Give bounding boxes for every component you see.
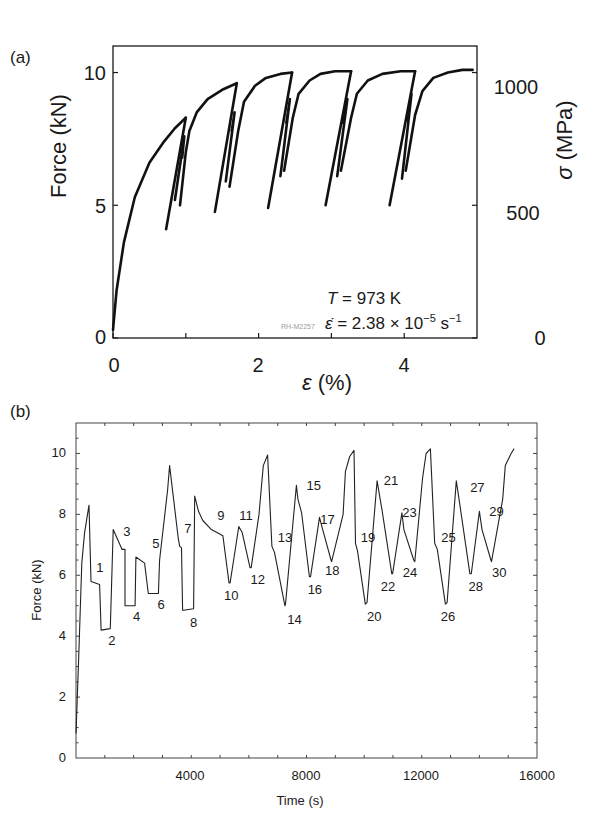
b-ytick-6: 6 [59, 567, 66, 582]
a-ylabel-right: σ (MPa) [552, 100, 577, 179]
segment-number-label: 24 [403, 565, 417, 580]
figure-canvas: (a) 0 5 10 0 500 1000 0 2 4 Force (kN) σ… [0, 0, 600, 836]
panel-b: (b) 123456789101112131415161718192021222… [10, 402, 555, 808]
strain-rate-unit: s [436, 314, 449, 333]
a-ytick-5: 5 [95, 195, 106, 217]
segment-number-label: 14 [287, 612, 301, 627]
epsilon-symbol: ε [302, 370, 312, 395]
segment-number-label: 11 [239, 508, 253, 523]
temperature-value: = 973 K [337, 289, 401, 308]
panel-b-segment-labels: 1234567891011121314151617181920212223242… [96, 473, 506, 648]
b-ytick-4: 4 [59, 628, 66, 643]
a-xtick-2: 2 [252, 354, 263, 376]
segment-number-label: 30 [492, 565, 506, 580]
segment-number-label: 27 [470, 480, 484, 495]
segment-number-label: 20 [367, 609, 381, 624]
a-ytick-10: 10 [84, 62, 106, 84]
panel-a: (a) 0 5 10 0 500 1000 0 2 4 Force (kN) σ… [10, 46, 577, 395]
segment-number-label: 9 [217, 508, 224, 523]
segment-number-label: 3 [123, 524, 130, 539]
b-xtick-16000: 16000 [519, 768, 555, 783]
b-ylabel: Force (kN) [29, 559, 44, 620]
b-xtick-4000: 4000 [176, 768, 205, 783]
a-xtick-4: 4 [398, 354, 409, 376]
b-ytick-2: 2 [59, 689, 66, 704]
segment-number-label: 19 [361, 530, 375, 545]
segment-number-label: 2 [108, 633, 115, 648]
segment-number-label: 29 [489, 504, 503, 519]
segment-number-label: 16 [308, 582, 322, 597]
b-xtick-8000: 8000 [292, 768, 321, 783]
panel-b-label: (b) [10, 402, 31, 421]
b-xlabel: Time (s) [276, 793, 323, 808]
panel-b-curve [76, 449, 514, 734]
b-ytick-0: 0 [59, 750, 66, 765]
strain-rate-unit-exponent: −1 [449, 312, 462, 324]
strain-rate-exponent: −5 [423, 312, 436, 324]
mpa-unit: (MPa) [552, 100, 577, 166]
a-ytick-right-0: 0 [534, 327, 545, 349]
segment-number-label: 4 [133, 609, 140, 624]
segment-number-label: 15 [307, 478, 321, 493]
segment-number-label: 8 [190, 615, 197, 630]
segment-number-label: 25 [441, 530, 455, 545]
percent-unit: (%) [312, 370, 352, 395]
segment-number-label: 10 [224, 588, 238, 603]
segment-number-label: 1 [96, 560, 103, 575]
segment-number-label: 5 [152, 536, 159, 551]
specimen-id: RH-M2257 [281, 323, 315, 330]
segment-number-label: 21 [384, 473, 398, 488]
annotation-temperature: T = 973 K [327, 289, 402, 308]
a-xtick-0: 0 [108, 354, 119, 376]
segment-number-label: 13 [278, 530, 292, 545]
sigma-symbol: σ [552, 166, 577, 180]
segment-number-label: 17 [320, 512, 334, 527]
stress-strain-curve [406, 70, 473, 171]
segment-number-label: 26 [441, 609, 455, 624]
stress-strain-curve [113, 118, 186, 330]
b-ytick-8: 8 [59, 506, 66, 521]
b-xtick-12000: 12000 [403, 768, 439, 783]
segment-number-label: 18 [325, 563, 339, 578]
a-ylabel-left: Force (kN) [46, 94, 71, 198]
panel-a-curves [113, 70, 473, 330]
a-ytick-right-500: 500 [506, 202, 539, 224]
strain-rate-value: = 2.38 × 10 [332, 314, 423, 333]
b-ytick-10: 10 [52, 445, 66, 460]
panel-a-label: (a) [10, 48, 31, 67]
segment-number-label: 28 [468, 579, 482, 594]
segment-number-label: 7 [184, 521, 191, 536]
force-time-curve [76, 449, 514, 734]
a-ytick-0: 0 [95, 326, 106, 348]
segment-number-label: 23 [402, 505, 416, 520]
annotation-strain-rate: ε̇ = 2.38 × 10−5 s−1 [325, 312, 462, 333]
segment-number-label: 12 [251, 572, 265, 587]
a-xlabel: ε (%) [302, 370, 352, 395]
segment-number-label: 6 [158, 597, 165, 612]
segment-number-label: 22 [381, 579, 395, 594]
stress-strain-curve [215, 83, 237, 212]
a-ytick-right-1000: 1000 [494, 76, 539, 98]
